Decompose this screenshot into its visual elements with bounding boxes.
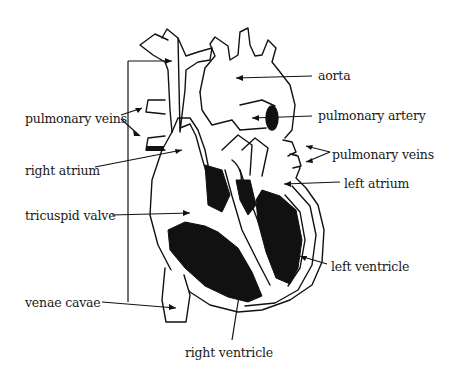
label-tricuspid-valve: tricuspid valve xyxy=(25,210,115,223)
aortic-arch xyxy=(200,28,295,138)
label-right-atrium: right atrium xyxy=(25,165,100,178)
label-pulmonary-veins-left: pulmonary veins xyxy=(25,113,127,126)
label-pulmonary-veins-right: pulmonary veins xyxy=(332,149,434,162)
inferior-vena-cava xyxy=(162,268,190,322)
label-right-ventricle: right ventricle xyxy=(185,347,273,360)
label-left-atrium: left atrium xyxy=(344,178,409,191)
heart-diagram xyxy=(0,0,449,382)
label-pulmonary-artery: pulmonary artery xyxy=(318,110,426,123)
label-aorta: aorta xyxy=(318,70,350,83)
label-venae-cavae: venae cavae xyxy=(25,297,101,310)
right-pulmonary-vein-lower xyxy=(290,154,301,168)
left-pulmonary-vein-upper xyxy=(146,100,165,114)
label-left-ventricle: left ventricle xyxy=(331,261,409,274)
